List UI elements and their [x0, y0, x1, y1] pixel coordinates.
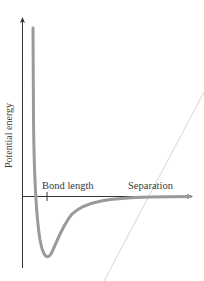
potential-curve	[33, 28, 190, 257]
potential-energy-diagram	[0, 0, 204, 281]
y-axis-label: Potential energy	[3, 94, 14, 178]
bond-length-label: Bond length	[42, 181, 94, 192]
x-axis-label: Separation	[128, 181, 173, 192]
